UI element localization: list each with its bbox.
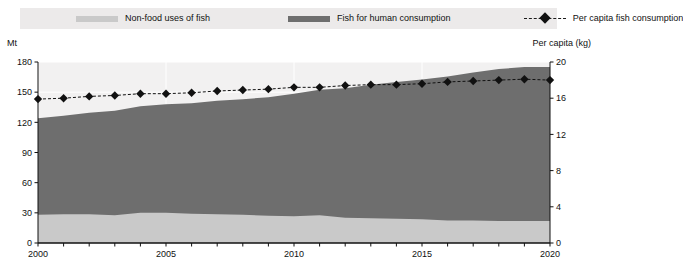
svg-text:12: 12 [556,130,566,140]
svg-text:150: 150 [17,87,32,97]
svg-text:2020: 2020 [540,249,560,259]
svg-text:20: 20 [556,57,566,67]
svg-text:120: 120 [17,118,32,128]
svg-text:8: 8 [556,166,561,176]
svg-text:16: 16 [556,93,566,103]
svg-text:0: 0 [27,238,32,248]
svg-text:0: 0 [556,238,561,248]
svg-text:90: 90 [22,148,32,158]
svg-text:180: 180 [17,57,32,67]
svg-text:60: 60 [22,178,32,188]
svg-text:4: 4 [556,202,561,212]
svg-text:2000: 2000 [28,249,48,259]
svg-text:2005: 2005 [156,249,176,259]
svg-text:2015: 2015 [412,249,432,259]
svg-text:30: 30 [22,208,32,218]
svg-text:2010: 2010 [284,249,304,259]
